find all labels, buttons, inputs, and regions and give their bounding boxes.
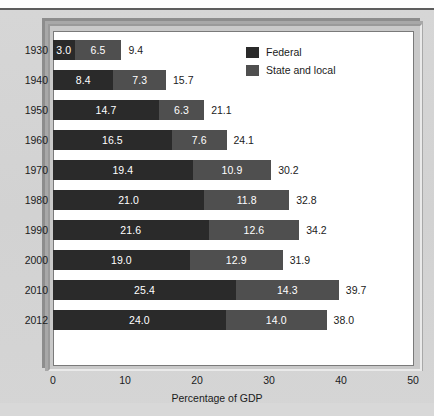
bar-total-label: 30.2 <box>278 160 298 180</box>
x-axis-tick-label: 50 <box>393 374 433 386</box>
bar-row[interactable]: 16.57.624.1 <box>0 130 434 150</box>
bar-segment-value-label: 14.0 <box>226 310 327 330</box>
bar-total-label: 39.7 <box>346 280 366 300</box>
page-top-margin <box>0 0 434 8</box>
bar-segment-value-label: 6.5 <box>75 40 122 60</box>
bar-segment-value-label: 16.5 <box>53 130 172 150</box>
bar-segment-value-label: 7.3 <box>113 70 166 90</box>
legend-label-federal: Federal <box>266 45 302 60</box>
bar-row[interactable]: 14.76.321.1 <box>0 100 434 120</box>
bar-segment-value-label: 21.6 <box>53 220 209 240</box>
bar-segment-value-label: 12.6 <box>209 220 300 240</box>
x-axis-tick-label: 40 <box>321 374 361 386</box>
bar-segment-value-label: 10.9 <box>193 160 271 180</box>
bar-segment-value-label: 25.4 <box>53 280 236 300</box>
bar-row[interactable]: 21.011.832.8 <box>0 190 434 210</box>
state-and-local-swatch-icon <box>246 65 259 76</box>
chart-page: 1930194019501960197019801990200020102012… <box>0 0 434 416</box>
bar-row[interactable]: 25.414.339.7 <box>0 280 434 300</box>
bar-total-label: 15.7 <box>173 70 193 90</box>
bar-segment-value-label: 19.4 <box>53 160 193 180</box>
bar-segment-value-label: 24.0 <box>53 310 226 330</box>
bar-segment-value-label: 14.7 <box>53 100 159 120</box>
bar-row[interactable]: 19.012.931.9 <box>0 250 434 270</box>
bar-row[interactable]: 24.014.038.0 <box>0 310 434 330</box>
x-axis-tick-label: 0 <box>33 374 73 386</box>
bar-segment-value-label: 3.0 <box>53 40 75 60</box>
bar-segment-value-label: 7.6 <box>172 130 227 150</box>
bar-total-label: 9.4 <box>128 40 143 60</box>
bar-total-label: 24.1 <box>234 130 254 150</box>
x-axis-tick-label: 30 <box>249 374 289 386</box>
bar-total-label: 32.8 <box>296 190 316 210</box>
bar-total-label: 38.0 <box>334 310 354 330</box>
bar-segment-value-label: 12.9 <box>190 250 283 270</box>
x-axis-tick-label: 10 <box>105 374 145 386</box>
bar-row[interactable]: 3.06.59.4 <box>0 40 434 60</box>
bar-total-label: 34.2 <box>306 220 326 240</box>
bar-segment-value-label: 14.3 <box>236 280 339 300</box>
bar-row[interactable]: 8.47.315.7 <box>0 70 434 90</box>
bar-row[interactable]: 19.410.930.2 <box>0 160 434 180</box>
bar-total-label: 21.1 <box>211 100 231 120</box>
federal-swatch-icon <box>246 47 259 58</box>
bar-segment-value-label: 8.4 <box>53 70 113 90</box>
bar-segment-value-label: 19.0 <box>53 250 190 270</box>
x-axis-tick-label: 20 <box>177 374 217 386</box>
legend-label-state-and-local: State and local <box>266 63 335 78</box>
bar-segment-value-label: 21.0 <box>53 190 204 210</box>
bar-total-label: 31.9 <box>290 250 310 270</box>
bar-row[interactable]: 21.612.634.2 <box>0 220 434 240</box>
bar-segment-value-label: 6.3 <box>159 100 204 120</box>
bar-segment-value-label: 11.8 <box>204 190 289 210</box>
x-axis-title: Percentage of GDP <box>0 392 434 404</box>
page-bottom-edge <box>0 403 434 416</box>
